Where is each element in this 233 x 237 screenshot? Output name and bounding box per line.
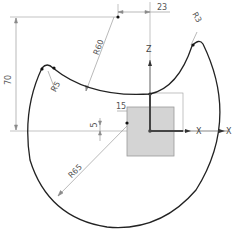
dimension-r60-label: R60	[92, 38, 106, 56]
x-axis-label: X	[196, 127, 202, 136]
dimension-5-label: 5	[90, 122, 99, 127]
z-axis-arrow-icon	[148, 60, 152, 66]
x-axis-arrow-icon	[185, 129, 191, 133]
dimension-5[interactable]	[99, 118, 102, 141]
x-axis-label-far: X	[226, 127, 232, 136]
point-r3[interactable]	[191, 43, 194, 46]
dimension-r5-label: R5	[49, 80, 62, 94]
origin-point	[148, 129, 152, 133]
x-axis-arrow-far-icon	[219, 129, 225, 133]
dimension-r65[interactable]	[58, 126, 127, 196]
dimension-15-label: 15	[116, 102, 126, 111]
point-r5-left[interactable]	[40, 67, 43, 70]
dimension-r3-label: R3	[190, 11, 203, 25]
point-top-dimension[interactable]	[116, 15, 119, 18]
dimension-r65-label: R65	[66, 162, 84, 180]
sketch-canvas[interactable]: 70 23 R60 R5 R3 R65 15 5	[0, 0, 233, 237]
dimension-70-label: 70	[4, 75, 13, 85]
dimension-70[interactable]	[15, 18, 18, 130]
dimension-23-label: 23	[157, 3, 167, 12]
z-axis-label: Z	[146, 45, 152, 54]
point-block-left[interactable]	[125, 121, 128, 124]
point-r5-right[interactable]	[52, 66, 55, 69]
sketch-profile[interactable]	[28, 41, 220, 227]
